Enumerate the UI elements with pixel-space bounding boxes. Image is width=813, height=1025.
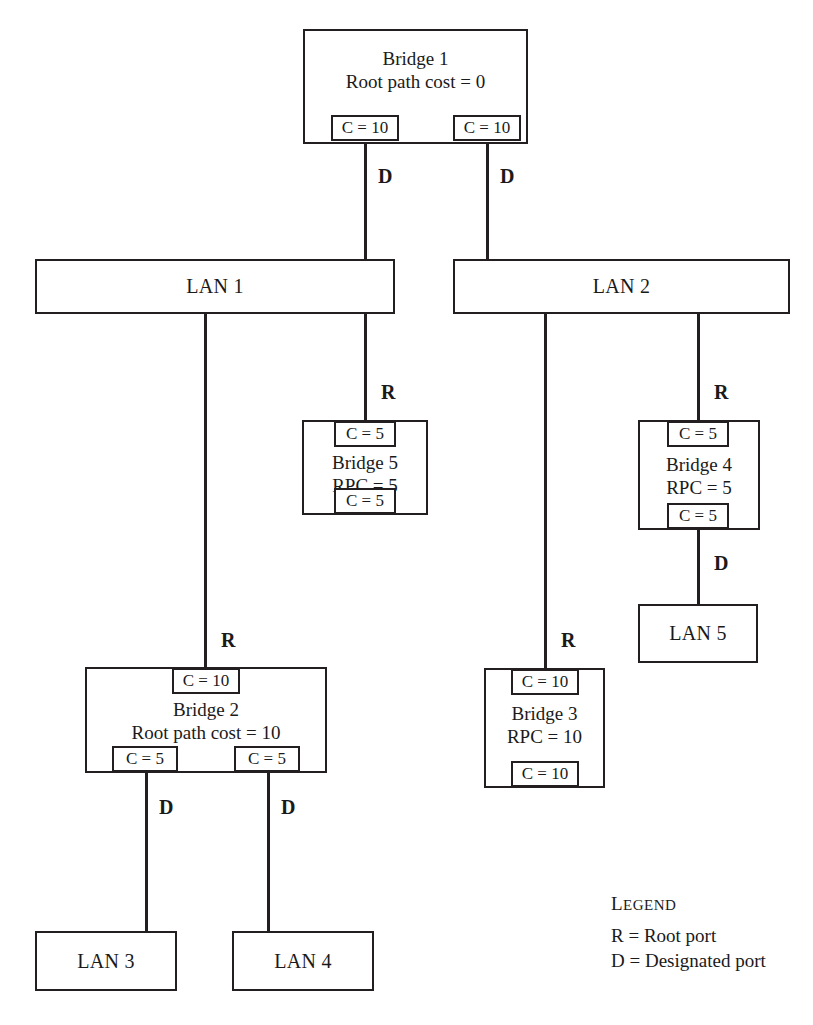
bridge2-port-top[interactable]: C = 10	[172, 668, 240, 694]
lan3-box[interactable]: LAN 3	[35, 931, 177, 991]
port-role-b2-bottom-right: D	[281, 797, 295, 817]
legend: LEGEND R = Root port D = Designated port	[611, 893, 766, 973]
bridge5-port-top[interactable]: C = 5	[334, 421, 396, 447]
link-lan2-bridge4	[697, 312, 700, 427]
bridge5-port-bottom[interactable]: C = 5	[334, 488, 396, 514]
link-bridge2-lan4	[267, 773, 270, 935]
port-role-b5-top: R	[381, 382, 395, 402]
legend-title: LEGEND	[611, 893, 766, 915]
link-bridge4-lan5	[697, 528, 700, 608]
bridge1-label: Bridge 1Root path cost = 0	[305, 47, 526, 93]
lan5-box[interactable]: LAN 5	[638, 604, 758, 663]
port-role-b4-top: R	[714, 382, 728, 402]
link-bridge1-lan2	[486, 132, 489, 262]
bridge4-port-top[interactable]: C = 5	[667, 421, 729, 447]
link-bridge1-lan1	[364, 132, 367, 262]
link-bridge2-lan3	[145, 773, 148, 935]
lan3-label: LAN 3	[77, 950, 135, 973]
bridge3-label: Bridge 3RPC = 10	[486, 702, 603, 748]
bridge3-port-bottom[interactable]: C = 10	[511, 761, 579, 787]
link-lan1-bridge2	[204, 312, 207, 672]
link-lan1-bridge5	[364, 312, 367, 427]
port-role-b3-top: R	[561, 630, 575, 650]
legend-row-designated-port: D = Designated port	[611, 948, 766, 973]
port-role-b1-left: D	[378, 166, 392, 186]
lan1-box[interactable]: LAN 1	[35, 259, 395, 314]
legend-row-root-port: R = Root port	[611, 923, 766, 948]
port-role-b1-right: D	[500, 166, 514, 186]
port-role-b2-bottom-left: D	[159, 797, 173, 817]
network-diagram: Bridge 1Root path cost = 0 C = 10 C = 10…	[0, 0, 813, 1025]
legend-title-rest: EGEND	[623, 897, 676, 913]
lan1-label: LAN 1	[186, 275, 244, 298]
legend-title-first: L	[611, 893, 623, 914]
bridge4-port-bottom[interactable]: C = 5	[667, 503, 729, 529]
bridge3-port-top[interactable]: C = 10	[511, 669, 579, 695]
bridge1-port-left[interactable]: C = 10	[331, 115, 399, 141]
port-role-b2-top: R	[221, 630, 235, 650]
lan2-label: LAN 2	[593, 275, 651, 298]
bridge4-label: Bridge 4RPC = 5	[640, 453, 758, 499]
lan4-box[interactable]: LAN 4	[232, 931, 374, 991]
bridge2-port-bottom-left[interactable]: C = 5	[112, 746, 178, 772]
link-lan2-bridge3	[544, 312, 547, 674]
port-role-b4-bottom: D	[714, 553, 728, 573]
bridge1-port-right[interactable]: C = 10	[453, 115, 521, 141]
bridge2-port-bottom-right[interactable]: C = 5	[234, 746, 300, 772]
bridge2-label: Bridge 2Root path cost = 10	[87, 698, 325, 744]
lan4-label: LAN 4	[274, 950, 332, 973]
lan2-box[interactable]: LAN 2	[453, 259, 790, 314]
lan5-label: LAN 5	[669, 622, 727, 645]
